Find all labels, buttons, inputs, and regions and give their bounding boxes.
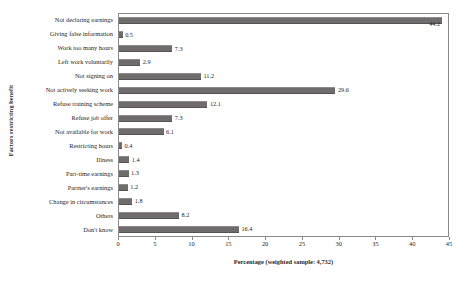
bar-row: 1.3 bbox=[119, 167, 448, 181]
bar-value-label: 2.9 bbox=[143, 59, 151, 65]
bar-row: 1.2 bbox=[119, 181, 448, 195]
bar-value-label: 12.1 bbox=[210, 101, 221, 107]
bar-row: 7.3 bbox=[119, 111, 448, 125]
bar bbox=[119, 156, 129, 163]
x-axis-tick-label: 35 bbox=[372, 241, 378, 247]
bar-row: 0.4 bbox=[119, 139, 448, 153]
bar-row: 16.4 bbox=[119, 222, 448, 236]
bar-row: 12.1 bbox=[119, 97, 448, 111]
bar-value-label: 0.4 bbox=[124, 143, 132, 149]
bar-row: 1.4 bbox=[119, 153, 448, 167]
bar bbox=[119, 212, 179, 219]
x-axis-title: Percentage (weighted sample: 4,732) bbox=[118, 258, 449, 265]
bar-value-label: 44.2 bbox=[429, 21, 440, 27]
bar-series: 44.20.57.32.911.229.612.17.36.10.41.41.3… bbox=[119, 14, 448, 236]
bar-row: 0.5 bbox=[119, 28, 448, 42]
bar-row: 8.2 bbox=[119, 208, 448, 222]
bar bbox=[119, 73, 201, 80]
category-label: Work too many hours bbox=[20, 41, 116, 55]
y-axis-title-text: Factors restricting benefit bbox=[8, 84, 15, 155]
category-label: Restricting hours bbox=[20, 139, 116, 153]
x-axis-tick-label: 0 bbox=[116, 241, 119, 247]
bar bbox=[119, 198, 132, 205]
bar bbox=[119, 226, 239, 233]
bar-row: 2.9 bbox=[119, 56, 448, 70]
x-axis-tick-label: 15 bbox=[225, 241, 231, 247]
bar-row: 7.3 bbox=[119, 42, 448, 56]
bar bbox=[119, 87, 335, 94]
bar-value-label: 1.2 bbox=[130, 184, 138, 190]
category-label: Part-time earnings bbox=[20, 167, 116, 181]
category-label: Illness bbox=[20, 153, 116, 167]
bar-row: 44.2 bbox=[119, 14, 448, 28]
category-label: Refuse training scheme bbox=[20, 97, 116, 111]
category-label: Partner's earnings bbox=[20, 181, 116, 195]
bar-row: 11.2 bbox=[119, 70, 448, 84]
bar bbox=[119, 45, 172, 52]
bar bbox=[119, 59, 140, 66]
category-label: Not actively seeking work bbox=[20, 83, 116, 97]
bar bbox=[119, 31, 123, 38]
x-axis-tick-label: 45 bbox=[446, 241, 452, 247]
bar-chart: Factors restricting benefit Not declarin… bbox=[0, 0, 467, 281]
category-label: Others bbox=[20, 209, 116, 223]
category-axis-labels: Not declaring earningsGiving false infor… bbox=[20, 13, 116, 237]
x-axis-tick-label: 5 bbox=[153, 241, 156, 247]
bar-value-label: 7.3 bbox=[175, 46, 183, 52]
bar-value-label: 11.2 bbox=[203, 73, 214, 79]
y-axis-title: Factors restricting benefit bbox=[0, 0, 22, 240]
bar-row: 1.8 bbox=[119, 194, 448, 208]
bar bbox=[119, 128, 164, 135]
bar bbox=[119, 170, 129, 177]
bar bbox=[119, 184, 128, 191]
x-axis-tick-label: 10 bbox=[188, 241, 194, 247]
x-axis-tick-label: 40 bbox=[409, 241, 415, 247]
bar-row: 6.1 bbox=[119, 125, 448, 139]
bar-value-label: 6.1 bbox=[166, 129, 174, 135]
category-label: Change in circumstances bbox=[20, 195, 116, 209]
x-axis-tick-label: 20 bbox=[262, 241, 268, 247]
bar-value-label: 8.2 bbox=[181, 212, 189, 218]
bar-row: 29.6 bbox=[119, 83, 448, 97]
category-label: Not available for work bbox=[20, 125, 116, 139]
bar bbox=[119, 115, 172, 122]
x-axis-tick-label: 25 bbox=[299, 241, 305, 247]
bar bbox=[119, 101, 207, 108]
bar-value-label: 0.5 bbox=[125, 32, 133, 38]
bar-value-label: 1.8 bbox=[135, 198, 143, 204]
category-label: Giving false information bbox=[20, 27, 116, 41]
bar-value-label: 7.3 bbox=[175, 115, 183, 121]
bar bbox=[119, 17, 442, 24]
bar-value-label: 16.4 bbox=[241, 226, 252, 232]
bar bbox=[119, 142, 122, 149]
category-label: Left work voluntarily bbox=[20, 55, 116, 69]
category-label: Not signing on bbox=[20, 69, 116, 83]
bar-value-label: 1.4 bbox=[132, 157, 140, 163]
category-label: Refuse job offer bbox=[20, 111, 116, 125]
bar-value-label: 29.6 bbox=[338, 87, 349, 93]
x-axis-tick-label: 30 bbox=[335, 241, 341, 247]
category-label: Don't know bbox=[20, 223, 116, 237]
category-label: Not declaring earnings bbox=[20, 13, 116, 27]
plot-area: 44.20.57.32.911.229.612.17.36.10.41.41.3… bbox=[118, 13, 449, 237]
x-axis: 051015202530354045 bbox=[118, 237, 449, 251]
bar-value-label: 1.3 bbox=[131, 170, 139, 176]
